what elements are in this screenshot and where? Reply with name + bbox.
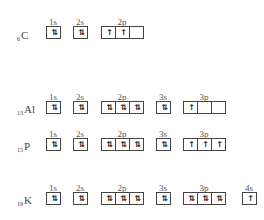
electron-pair-icon: ⇅	[134, 194, 139, 203]
electron-up-icon: ↑	[216, 140, 221, 149]
element-label: 6C	[17, 28, 28, 46]
orbital-box: ⇅	[47, 102, 60, 113]
orbital-box: ↑	[184, 139, 198, 150]
orbital-box: ↑	[116, 27, 130, 38]
electron-pair-icon: ⇅	[120, 140, 125, 149]
element-symbol: P	[24, 140, 30, 152]
electron-pair-icon: ⇅	[78, 103, 83, 112]
atomic-number: 15	[17, 147, 23, 153]
orbital-box: ⇅	[198, 193, 212, 204]
electron-pair-icon: ⇅	[120, 103, 125, 112]
orbital-box: ⇅	[102, 139, 116, 150]
electron-up-icon: ↑	[188, 140, 193, 149]
row-potassium: 19K 1s ⇅ 2s ⇅ 2p ⇅ ⇅ ⇅ 3s ⇅ 3p ⇅ ⇅ ⇅ 4s …	[0, 183, 264, 219]
orbital-box: ⇅	[47, 139, 60, 150]
orbital-box: ⇅	[116, 139, 130, 150]
electron-up-icon: ↑	[202, 140, 207, 149]
electron-pair-icon: ⇅	[51, 28, 56, 37]
element-symbol: K	[24, 194, 32, 206]
element-label: 13Al	[17, 102, 35, 120]
orbital-box: ⇅	[116, 193, 130, 204]
atomic-number: 6	[17, 36, 20, 42]
orbital-box: ⇅	[157, 139, 170, 150]
element-symbol: Al	[24, 103, 35, 115]
row-phosphorus: 15P 1s ⇅ 2s ⇅ 2p ⇅ ⇅ ⇅ 3s ⇅ 3p ↑ ↑ ↑	[0, 129, 264, 165]
orbital-box: ⇅	[74, 193, 87, 204]
row-aluminium: 13Al 1s ⇅ 2s ⇅ 2p ⇅ ⇅ ⇅ 3s ⇅ 3p ↑	[0, 92, 264, 128]
electron-pair-icon: ⇅	[51, 140, 56, 149]
atomic-number: 19	[17, 201, 23, 207]
electron-pair-icon: ⇅	[134, 103, 139, 112]
element-label: 15P	[17, 139, 30, 157]
electron-pair-icon: ⇅	[106, 140, 111, 149]
electron-pair-icon: ⇅	[51, 194, 56, 203]
electron-pair-icon: ⇅	[51, 103, 56, 112]
orbital-box	[130, 27, 143, 38]
orbital-box: ⇅	[102, 102, 116, 113]
orbital-box: ⇅	[157, 102, 170, 113]
element-label: 19K	[17, 193, 32, 211]
orbital-box: ↑	[102, 27, 116, 38]
element-symbol: C	[21, 29, 28, 41]
electron-pair-icon: ⇅	[161, 140, 166, 149]
orbital-box: ⇅	[157, 193, 170, 204]
row-carbon: 6C 1s ⇅ 2s ⇅ 2p ↑ ↑	[0, 17, 264, 53]
orbital-box	[212, 102, 225, 113]
orbital-box: ⇅	[130, 102, 143, 113]
electron-pair-icon: ⇅	[106, 194, 111, 203]
electron-pair-icon: ⇅	[188, 194, 193, 203]
orbital-box: ⇅	[130, 193, 143, 204]
electron-pair-icon: ⇅	[120, 194, 125, 203]
electron-up-icon: ↑	[106, 28, 111, 37]
orbital-box: ⇅	[47, 27, 60, 38]
orbital-box: ⇅	[74, 102, 87, 113]
electron-pair-icon: ⇅	[78, 140, 83, 149]
orbital-box: ⇅	[116, 102, 130, 113]
electron-pair-icon: ⇅	[161, 194, 166, 203]
orbital-box: ↑	[243, 193, 256, 204]
electron-pair-icon: ⇅	[78, 194, 83, 203]
electron-up-icon: ↑	[188, 103, 193, 112]
electron-pair-icon: ⇅	[161, 103, 166, 112]
electron-pair-icon: ⇅	[202, 194, 207, 203]
orbital-box: ↑	[198, 139, 212, 150]
orbital-box: ⇅	[184, 193, 198, 204]
electron-up-icon: ↑	[120, 28, 125, 37]
electron-pair-icon: ⇅	[78, 28, 83, 37]
orbital-box	[198, 102, 212, 113]
electron-pair-icon: ⇅	[134, 140, 139, 149]
orbital-box: ⇅	[74, 27, 87, 38]
orbital-box: ⇅	[130, 139, 143, 150]
orbital-box: ⇅	[74, 139, 87, 150]
electron-up-icon: ↑	[247, 194, 252, 203]
orbital-box: ⇅	[47, 193, 60, 204]
electron-pair-icon: ⇅	[106, 103, 111, 112]
orbital-box: ⇅	[102, 193, 116, 204]
orbital-box: ⇅	[212, 193, 225, 204]
atomic-number: 13	[17, 110, 23, 116]
orbital-box: ↑	[184, 102, 198, 113]
electron-pair-icon: ⇅	[216, 194, 221, 203]
orbital-box: ↑	[212, 139, 225, 150]
